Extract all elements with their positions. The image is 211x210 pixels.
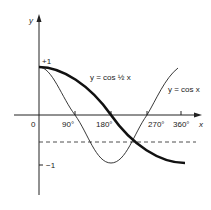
x-axis-label: x: [198, 120, 204, 129]
tick-270-label: 270°: [148, 120, 165, 129]
minus-one-label: −1: [46, 161, 56, 170]
y-axis-label: y: [28, 16, 34, 25]
plus-one-label: +1: [42, 57, 52, 66]
cos-x-label: y = cos x: [168, 85, 200, 94]
cos-half-x-label: y = cos ½ x: [90, 73, 131, 82]
origin-label: 0: [31, 120, 36, 129]
tick-360-label: 360°: [173, 120, 190, 129]
x-axis-arrow-icon: [194, 113, 202, 118]
y-axis-arrow-icon: [37, 14, 42, 22]
tick-90-label: 90°: [62, 120, 74, 129]
tick-180-label: 180°: [96, 120, 113, 129]
cosine-graph: y x 0 90° 180° 270° 360° +1 −1 y = cos ½…: [0, 0, 211, 210]
